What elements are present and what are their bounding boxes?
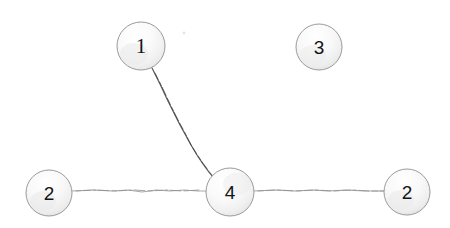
graph-diagram-canvas: 1 2 3 4 2 — [0, 0, 450, 228]
edge-node1-node4-texture — [155, 73, 208, 170]
node-label: 2 — [402, 182, 413, 203]
node-label: 1 — [136, 34, 147, 58]
graph-svg: 1 2 3 4 2 — [0, 0, 450, 228]
node-node1[interactable]: 1 — [117, 22, 165, 70]
scan-artifact-speck — [183, 32, 186, 35]
node-node3[interactable]: 3 — [296, 24, 342, 70]
node-label: 3 — [314, 37, 325, 58]
node-node4[interactable]: 4 — [206, 168, 254, 216]
node-node2-left[interactable]: 2 — [26, 170, 72, 216]
node-node2-right[interactable]: 2 — [384, 169, 430, 215]
node-label: 4 — [225, 182, 236, 203]
node-label: 2 — [44, 183, 55, 204]
edge-node1-node4 — [152, 68, 214, 178]
